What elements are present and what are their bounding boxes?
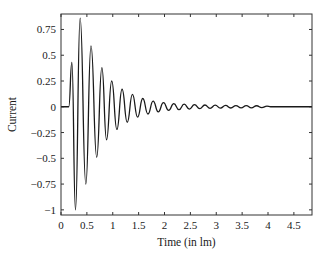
y-tick-label: −0.5 [36,152,56,164]
x-tick-label: 1 [110,219,116,231]
y-tick-label: 0.25 [37,75,57,87]
y-tick-label: 0 [51,101,57,113]
x-tick-label: 0.5 [80,219,94,231]
x-tick-label: 4 [265,219,271,231]
x-tick-label: 3.5 [235,219,249,231]
y-axis-ticks: 0.750.50.250−0.25−0.5−0.75−1 [31,23,312,215]
x-tick-label: 0 [58,219,64,231]
y-tick-label: −1 [44,204,56,216]
y-axis-label: Current [6,96,18,132]
x-tick-label: 2.5 [184,219,198,231]
line-chart: 00.511.522.533.544.5 0.750.50.250−0.25−0… [0,0,327,259]
x-tick-label: 4.5 [287,219,301,231]
x-tick-label: 3 [214,219,220,231]
y-tick-label: 0.75 [37,23,57,35]
y-tick-label: −0.25 [31,127,57,139]
x-tick-label: 1.5 [132,219,146,231]
current-curve [61,18,312,210]
x-axis-label: Time (in lm) [157,236,216,249]
x-tick-label: 2 [162,219,168,231]
y-tick-label: −0.75 [31,178,57,190]
y-tick-label: 0.5 [42,49,56,61]
